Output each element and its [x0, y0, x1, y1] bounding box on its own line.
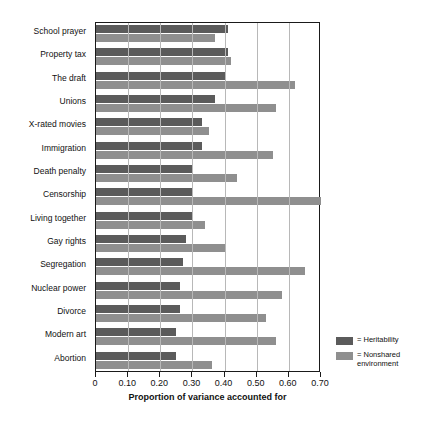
bar-heritability: [96, 328, 176, 336]
bar-row: [96, 233, 319, 256]
bar-row: [96, 46, 319, 69]
category-label: X-rated movies: [29, 119, 86, 129]
bar-nonshared: [96, 81, 295, 89]
x-axis-title: Proportion of variance accounted for: [95, 392, 320, 402]
bar-heritability: [96, 235, 186, 243]
bar-nonshared: [96, 151, 273, 159]
category-label: Abortion: [54, 353, 86, 363]
bar-heritability: [96, 118, 202, 126]
bar-row: [96, 210, 319, 233]
bar-row: [96, 93, 319, 116]
x-axis-tick: [191, 372, 192, 377]
x-axis-tick: [288, 372, 289, 377]
category-label: Death penalty: [34, 166, 86, 176]
category-axis-labels: School prayerProperty taxThe draftUnions…: [0, 22, 90, 372]
category-label: Unions: [60, 96, 86, 106]
bar-heritability: [96, 305, 180, 313]
category-label: Segregation: [40, 259, 86, 269]
x-axis-tick: [127, 372, 128, 377]
category-label: Immigration: [42, 143, 86, 153]
category-label: Gay rights: [47, 236, 86, 246]
bar-row: [96, 350, 319, 373]
category-label: The draft: [52, 73, 86, 83]
category-label: Living together: [30, 213, 86, 223]
bar-heritability: [96, 282, 180, 290]
legend-item-heritability: = Heritability: [336, 336, 427, 345]
bar-heritability: [96, 48, 228, 56]
bar-row: [96, 303, 319, 326]
bar-row: [96, 256, 319, 279]
bar-nonshared: [96, 314, 266, 322]
legend-label-nonshared: = Nonshared environment: [357, 351, 427, 368]
category-label: Censorship: [43, 189, 86, 199]
bar-heritability: [96, 212, 192, 220]
bar-row: [96, 326, 319, 349]
gridline: [289, 23, 290, 371]
bar-row: [96, 186, 319, 209]
legend-label-heritability: = Heritability: [357, 336, 398, 345]
legend-item-nonshared: = Nonshared environment: [336, 351, 427, 368]
category-label: Nuclear power: [31, 283, 86, 293]
category-label: Modern art: [45, 329, 86, 339]
bar-heritability: [96, 258, 183, 266]
x-axis-tick-label: 0.70: [300, 378, 340, 388]
category-label: Divorce: [57, 306, 86, 316]
bar-nonshared: [96, 197, 321, 205]
bar-rows: [96, 23, 319, 371]
bar-row: [96, 163, 319, 186]
bar-nonshared: [96, 34, 215, 42]
bar-heritability: [96, 352, 176, 360]
category-label: School prayer: [34, 26, 86, 36]
bar-heritability: [96, 165, 192, 173]
gridline: [192, 23, 193, 371]
legend-swatch-heritability-icon: [336, 337, 353, 345]
category-label: Property tax: [40, 49, 86, 59]
bar-nonshared: [96, 57, 231, 65]
x-axis-tick: [159, 372, 160, 377]
bar-nonshared: [96, 104, 276, 112]
bar-heritability: [96, 142, 202, 150]
bar-row: [96, 280, 319, 303]
x-axis-tick: [224, 372, 225, 377]
x-axis-tick: [320, 372, 321, 377]
x-axis-tick: [95, 372, 96, 377]
bar-nonshared: [96, 361, 212, 369]
bar-row: [96, 23, 319, 46]
bar-heritability: [96, 95, 215, 103]
bar-row: [96, 140, 319, 163]
bar-heritability: [96, 25, 228, 33]
bar-row: [96, 116, 319, 139]
bar-nonshared: [96, 174, 237, 182]
chart-legend: = Heritability = Nonshared environment: [336, 336, 427, 374]
bar-nonshared: [96, 221, 205, 229]
gridline: [225, 23, 226, 371]
gridline: [128, 23, 129, 371]
bar-nonshared: [96, 337, 276, 345]
gridline: [257, 23, 258, 371]
legend-swatch-nonshared-icon: [336, 352, 353, 360]
bar-chart: School prayerProperty taxThe draftUnions…: [0, 0, 444, 428]
bar-nonshared: [96, 291, 282, 299]
gridline: [160, 23, 161, 371]
x-axis-tick: [256, 372, 257, 377]
plot-area: [95, 22, 320, 372]
bar-row: [96, 70, 319, 93]
bar-heritability: [96, 188, 192, 196]
